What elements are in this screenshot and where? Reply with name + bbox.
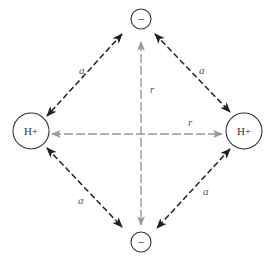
cation-left-label: H+ [24,125,38,137]
attraction-arrow-bottom-left [47,148,122,227]
cation-right-label: H+ [237,125,251,137]
anion-top: − [131,9,151,29]
attraction-arrow-top-right [155,34,230,112]
label-a-top-right: a [199,64,205,76]
attraction-arrow-top-left [47,34,122,116]
label-r-horizontal: r [188,116,193,128]
anion-top-label: − [137,12,144,27]
diagram-canvas: − H+ H+ − a a a a r r [0,0,271,260]
anion-bottom: − [131,232,151,252]
cation-left: H+ [13,113,49,149]
label-a-top-left: a [79,64,85,76]
cation-right: H+ [226,113,262,149]
ion-interaction-diagram: − H+ H+ − a a a a r r [0,0,271,260]
label-r-vertical: r [150,83,155,95]
label-a-bottom-left: a [78,194,84,206]
label-a-bottom-right: a [203,185,209,197]
anion-bottom-label: − [137,235,144,250]
attraction-arrow-bottom-right [157,149,230,228]
